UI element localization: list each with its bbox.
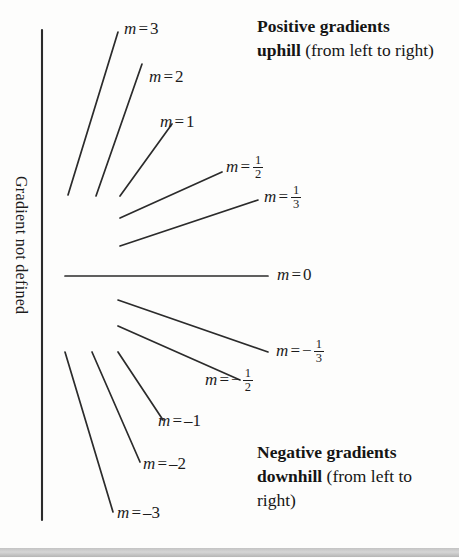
- equals-symbol: =: [289, 265, 303, 284]
- label-m-neg-1: m=–1: [158, 412, 201, 429]
- fraction-one-third: 13: [291, 184, 301, 211]
- fraction-one-third: 13: [314, 338, 324, 365]
- m-symbol: m: [264, 187, 276, 206]
- m-value: 0: [303, 265, 312, 284]
- m-symbol: m: [124, 19, 136, 38]
- equals-symbol: =: [238, 157, 252, 176]
- ray-m-neg-2: [92, 352, 140, 462]
- m-value: 3: [150, 19, 159, 38]
- fraction-numerator: 1: [243, 367, 253, 380]
- label-m-2: m=2: [149, 68, 184, 85]
- ray-m-neg-3: [65, 352, 113, 512]
- m-symbol: m: [160, 112, 172, 131]
- equals-symbol: =: [172, 112, 186, 131]
- minus-symbol: −: [302, 341, 313, 360]
- fraction-numerator: 1: [314, 338, 324, 351]
- ray-m-half: [120, 172, 222, 218]
- axis-label-gradient-not-defined: Gradient not defined: [12, 176, 30, 314]
- equals-symbol: =: [136, 19, 150, 38]
- label-m-neg-2: m=–2: [143, 455, 186, 472]
- fraction-denominator: 3: [291, 197, 301, 211]
- ray-m-third: [120, 200, 258, 246]
- m-value: 2: [175, 67, 184, 86]
- label-m-neg-one-half: m=−12: [205, 368, 253, 395]
- equals-symbol: =: [161, 67, 175, 86]
- equals-symbol: =: [288, 341, 302, 360]
- label-m-neg-3: m=–3: [117, 504, 160, 521]
- ray-m-neg-third: [118, 300, 268, 352]
- gradient-figure: Gradient not defined m=3 m=2 m=1 m=12 m=…: [0, 0, 459, 558]
- axis-label-text: Gradient not defined: [13, 176, 30, 314]
- callout-positive-gradients: Positive gradients uphill (from left to …: [257, 14, 435, 62]
- m-symbol: m: [149, 67, 161, 86]
- m-symbol: m: [277, 265, 289, 284]
- fraction-one-half: 12: [243, 367, 253, 394]
- callout-negative-gradients: Negative gradients downhill (from left t…: [257, 440, 435, 512]
- equals-symbol: =: [217, 370, 231, 389]
- m-symbol: m: [276, 341, 288, 360]
- label-m-neg-one-third: m=−13: [276, 339, 324, 366]
- label-m-0: m=0: [277, 266, 312, 283]
- equals-symbol: =: [155, 454, 169, 473]
- m-symbol: m: [226, 157, 238, 176]
- m-symbol: m: [143, 454, 155, 473]
- m-symbol: m: [117, 503, 129, 522]
- fraction-numerator: 1: [291, 184, 301, 197]
- fraction-numerator: 1: [253, 154, 263, 167]
- equals-symbol: =: [170, 411, 184, 430]
- fraction-denominator: 2: [243, 380, 253, 394]
- label-m-one-half: m=12: [226, 155, 263, 182]
- fraction-one-half: 12: [253, 154, 263, 181]
- ray-m-neg-1: [118, 352, 163, 420]
- equals-symbol: =: [276, 187, 290, 206]
- fraction-denominator: 2: [253, 167, 263, 181]
- m-value: –3: [143, 503, 160, 522]
- label-m-one-third: m=13: [264, 185, 301, 212]
- label-m-1: m=1: [160, 113, 195, 130]
- ray-m-1: [120, 124, 172, 196]
- callout-positive-rest: (from left to right): [301, 40, 434, 60]
- ray-m-3: [68, 32, 118, 195]
- equals-symbol: =: [129, 503, 143, 522]
- m-value: 1: [186, 112, 195, 131]
- minus-symbol: −: [231, 370, 242, 389]
- fraction-denominator: 3: [314, 351, 324, 365]
- m-symbol: m: [158, 411, 170, 430]
- m-value: –2: [169, 454, 186, 473]
- page-edge-shadow: [0, 548, 459, 557]
- m-value: –1: [184, 411, 201, 430]
- m-symbol: m: [205, 370, 217, 389]
- label-m-3: m=3: [124, 20, 159, 37]
